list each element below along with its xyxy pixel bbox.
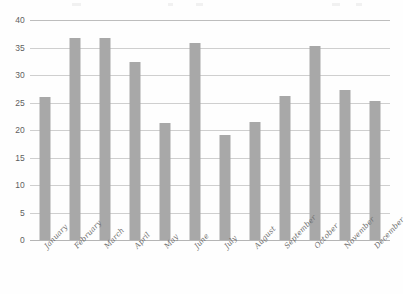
y-tick-label: 10 <box>15 181 25 190</box>
x-label-slot: October <box>300 243 330 294</box>
bar-slot <box>120 20 150 240</box>
y-tick-label: 15 <box>15 153 25 162</box>
plot-area: 0510152025303540 <box>30 20 390 240</box>
bar-july[interactable] <box>220 135 231 240</box>
bar-slot <box>270 20 300 240</box>
bar-slot <box>300 20 330 240</box>
bar-slot <box>180 20 210 240</box>
y-tick-label: 5 <box>20 208 25 217</box>
bar-slot <box>90 20 120 240</box>
x-label-slot: March <box>90 243 120 294</box>
x-axis-labels: JanuaryFebruaryMarchAprilMayJuneJulyAugu… <box>30 243 390 294</box>
y-tick-label: 20 <box>15 126 25 135</box>
bar-slot <box>360 20 390 240</box>
x-label-slot: August <box>240 243 270 294</box>
x-label-slot: May <box>150 243 180 294</box>
x-label-slot: December <box>360 243 390 294</box>
y-tick-label: 25 <box>15 98 25 107</box>
bar-february[interactable] <box>70 38 81 240</box>
y-tick-label: 35 <box>15 43 25 52</box>
bar-slot <box>150 20 180 240</box>
bar-september[interactable] <box>280 96 291 240</box>
bar-august[interactable] <box>250 122 261 240</box>
x-label-slot: November <box>330 243 360 294</box>
scan-artifact <box>0 0 403 10</box>
y-tick-label: 40 <box>15 16 25 25</box>
bar-slot <box>30 20 60 240</box>
x-label-slot: February <box>60 243 90 294</box>
bar-january[interactable] <box>40 97 51 240</box>
x-label-slot: July <box>210 243 240 294</box>
bar-june[interactable] <box>190 43 201 240</box>
x-label-slot: June <box>180 243 210 294</box>
x-label-slot: September <box>270 243 300 294</box>
bar-slot <box>330 20 360 240</box>
bar-april[interactable] <box>130 62 141 240</box>
x-label-slot: April <box>120 243 150 294</box>
bar-slot <box>210 20 240 240</box>
bar-november[interactable] <box>340 90 351 240</box>
bar-slot <box>60 20 90 240</box>
bar-october[interactable] <box>310 46 321 240</box>
y-tick-label: 30 <box>15 71 25 80</box>
bars <box>30 20 390 240</box>
x-label-slot: January <box>30 243 60 294</box>
bar-slot <box>240 20 270 240</box>
y-tick-label: 0 <box>20 236 25 245</box>
bar-march[interactable] <box>100 38 111 240</box>
bar-may[interactable] <box>160 123 171 240</box>
